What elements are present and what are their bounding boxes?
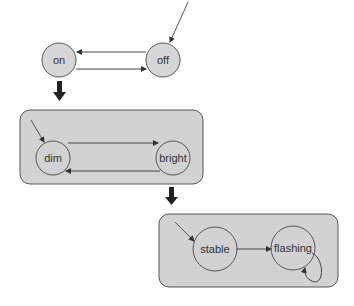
state-label: bright [159, 152, 187, 164]
state-label: on [53, 54, 65, 66]
refine-arrow-down-icon [165, 187, 178, 205]
level3-composite: stable flashing [159, 214, 338, 287]
state-diagram: on off dim bright [0, 0, 354, 306]
state-label: off [157, 54, 170, 66]
state-on[interactable]: on [42, 43, 76, 77]
state-label: flashing [274, 242, 312, 254]
level2-composite: dim bright [20, 110, 203, 184]
state-off[interactable]: off [146, 43, 180, 77]
refine-arrow-down-icon [53, 81, 66, 101]
state-label: dim [44, 152, 62, 164]
initial-arrow-off [170, 2, 188, 42]
state-label: stable [200, 243, 229, 255]
level1-group: on off [42, 2, 188, 77]
